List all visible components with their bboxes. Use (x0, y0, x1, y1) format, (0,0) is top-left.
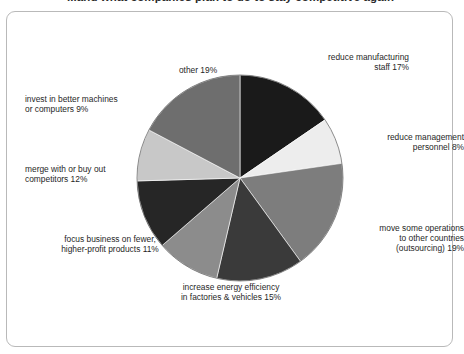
pie-label-reduce-management-personnel: reduce management personnel 8% (336, 132, 464, 152)
pie-chart: other 19% reduce manufacturing staff 17%… (7, 12, 454, 348)
pie-label-increase-energy-efficiency: increase energy efficiency in factories … (145, 282, 317, 302)
pie-label-other: other 19% (155, 65, 241, 75)
pie-label-focus-business: focus business on fewer, higher-profit p… (29, 234, 191, 254)
pie-label-merge-with-or-buy-out: merge with or buy out competitors 12% (25, 164, 173, 184)
chart-panel: other 19% reduce manufacturing staff 17%… (6, 11, 453, 347)
figure-title: ...and what companies plan to do to stay… (0, 0, 461, 3)
pie-label-move-some-operations: move some operations to other countries … (336, 223, 464, 254)
figure-title-strip: ...and what companies plan to do to stay… (0, 0, 461, 11)
pie-label-reduce-manufacturing-staff: reduce manufacturing staff 17% (269, 52, 409, 72)
pie-label-invest-in-better-machines: invest in better machines or computers 9… (25, 94, 183, 114)
